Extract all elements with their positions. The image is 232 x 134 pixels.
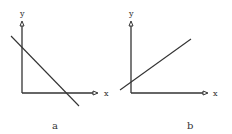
caption-b: b [187, 120, 193, 131]
y-axis-arrow-icon [20, 21, 24, 26]
y-label-a: y [19, 9, 25, 18]
x-label-b: x [213, 89, 218, 98]
x-label-a: x [104, 89, 109, 98]
panel-a: y x a [11, 9, 109, 131]
x-axis-arrow-icon [203, 91, 208, 95]
y-axis-arrow-icon [129, 21, 133, 26]
y-label-b: y [128, 9, 134, 18]
caption-a: a [52, 120, 58, 131]
x-axis-arrow-icon [93, 91, 98, 95]
line-a [11, 36, 79, 106]
panel-b: y x b [120, 9, 218, 131]
diagram-canvas: y x a y x b [0, 0, 232, 134]
